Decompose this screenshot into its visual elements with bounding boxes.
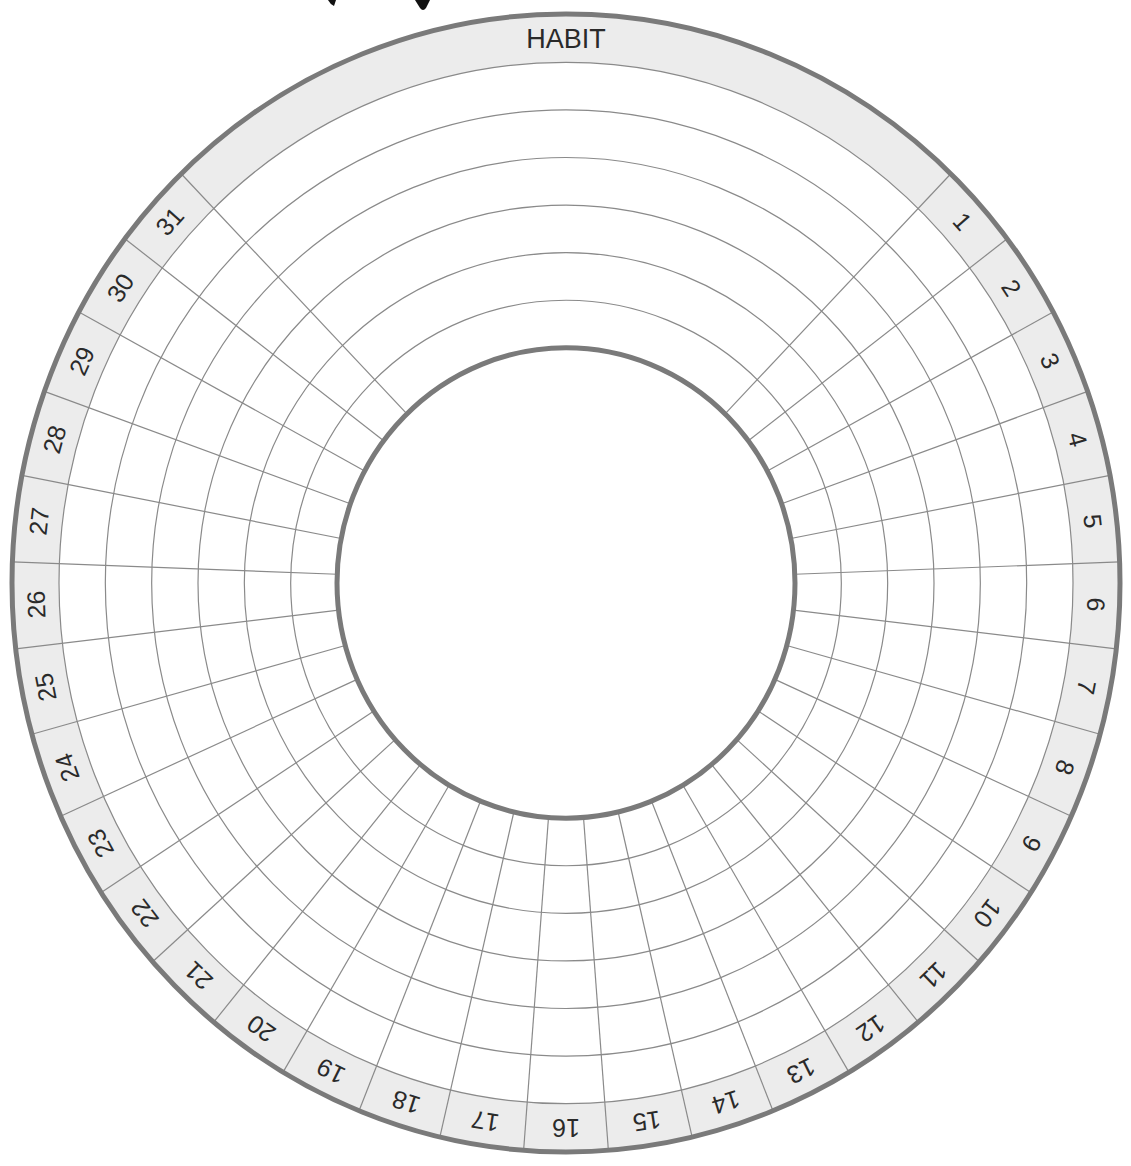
day-divider xyxy=(440,812,514,1137)
day-divider xyxy=(22,475,341,538)
day-divider xyxy=(359,801,480,1111)
day-divider xyxy=(787,646,1100,735)
day-divider xyxy=(16,610,339,649)
day-divider xyxy=(652,801,773,1111)
day-label-16: 16 xyxy=(552,1114,580,1142)
day-label-27: 27 xyxy=(23,506,54,537)
day-divider xyxy=(12,562,337,574)
day-divider xyxy=(791,475,1110,538)
day-divider xyxy=(793,610,1116,649)
day-divider xyxy=(524,817,549,1150)
day-divider xyxy=(767,312,1053,471)
habit-header-label: HABIT xyxy=(526,24,606,54)
center-circle xyxy=(337,348,795,818)
day-divider xyxy=(125,239,384,441)
day-divider xyxy=(584,817,609,1150)
day-divider xyxy=(32,646,345,735)
day-divider xyxy=(748,239,1007,441)
day-divider xyxy=(683,785,849,1072)
circular-habit-tracker: 1234567891011121314151617181920212223242… xyxy=(0,0,1131,1166)
day-divider xyxy=(795,562,1120,574)
day-divider xyxy=(101,711,374,893)
day-divider xyxy=(782,391,1088,503)
day-label-6: 6 xyxy=(1082,597,1111,612)
day-divider xyxy=(737,740,979,962)
day-divider xyxy=(712,765,919,1023)
day-label-26: 26 xyxy=(21,590,50,619)
day-divider xyxy=(214,765,421,1023)
day-divider xyxy=(61,679,357,816)
day-divider xyxy=(44,391,350,503)
day-divider xyxy=(153,740,395,962)
day-label-17: 17 xyxy=(469,1105,501,1137)
day-divider xyxy=(79,312,365,471)
day-divider xyxy=(181,174,407,414)
day-divider xyxy=(725,174,951,414)
day-divider xyxy=(618,812,692,1137)
day-label-25: 25 xyxy=(29,671,62,704)
day-divider xyxy=(283,785,449,1072)
title-fragment xyxy=(328,0,430,10)
day-label-15: 15 xyxy=(631,1105,663,1137)
day-divider xyxy=(758,711,1031,893)
day-divider xyxy=(775,679,1071,816)
